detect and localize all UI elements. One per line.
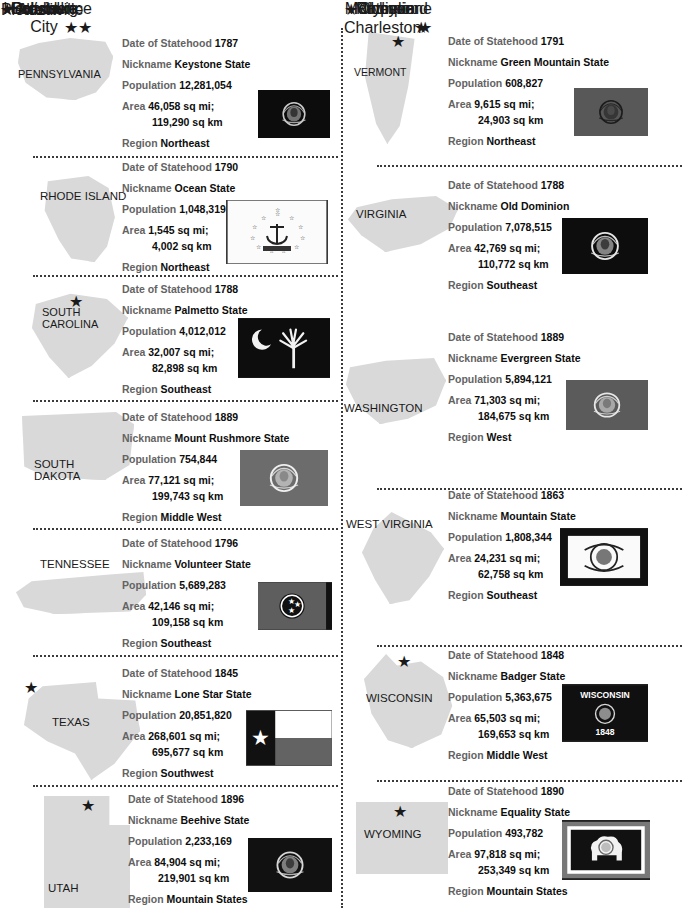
fact-value-population: 5,894,121: [505, 373, 552, 385]
fact-region: Region Mountain States: [128, 894, 249, 905]
entry-separator: [33, 275, 338, 277]
capital-city-label: Pierre ★: [0, 0, 62, 19]
fact-label-region: Region: [448, 431, 484, 443]
fact-label-area: Area: [448, 848, 471, 860]
svg-text:☆: ☆: [281, 248, 286, 254]
capital-star-icon: ★: [32, 292, 120, 311]
svg-text:☆: ☆: [261, 215, 266, 221]
fact-region: Region Middle West: [448, 750, 565, 761]
svg-text:☆: ☆: [294, 244, 299, 250]
state-flag: ★: [246, 710, 332, 766]
state-name-label: TENNESSEE: [40, 558, 144, 570]
fact-value-population: 20,851,820: [179, 709, 232, 721]
fact-value-nickname: Beehive State: [181, 814, 250, 826]
fact-population: Population 4,012,012: [122, 326, 247, 337]
capital-star-icon: ★: [0, 1, 14, 18]
fact-area: Area 9,615 sq mi;24,903 sq km: [448, 99, 609, 125]
fact-value-area-mi: 268,601 sq mi;: [148, 730, 220, 742]
capital-star-icon: ★: [418, 19, 432, 36]
fact-nickname: Nickname Evergreen State: [448, 353, 581, 364]
entry-separator: [377, 488, 682, 490]
fact-label-area: Area: [122, 730, 145, 742]
state-facts: Date of Statehood 1848Nickname Badger St…: [448, 650, 565, 771]
fact-label-date: Date of Statehood: [448, 785, 538, 797]
fact-region: Region West: [448, 432, 581, 443]
fact-value-date: 1863: [541, 489, 564, 501]
fact-region: Region Southeast: [448, 590, 576, 601]
fact-value-region: Northeast: [161, 261, 210, 273]
state-facts: Date of Statehood 1889Nickname Mount Rus…: [122, 412, 289, 533]
fact-area: Area 268,601 sq mi;695,677 sq km: [122, 731, 252, 757]
fact-region: Region Northeast: [448, 136, 609, 147]
fact-nickname: Nickname Beehive State: [128, 815, 249, 826]
capital-city-label: ★ Austin: [0, 0, 74, 19]
fact-label-region: Region: [122, 767, 158, 779]
capital-city-label: Montpelier: [344, 0, 420, 18]
fact-value-region: Southwest: [161, 767, 214, 779]
state-map-shape: [44, 796, 130, 908]
fact-value-date: 1796: [215, 537, 238, 549]
fact-nickname: Nickname Lone Star State: [122, 689, 252, 700]
state-entry: UTAHSalt Lake City★Date of Statehood 189…: [0, 0, 344, 920]
fact-value-date: 1788: [541, 179, 564, 191]
capital-city-label: Providence ★: [0, 0, 92, 37]
state-facts: Date of Statehood 1796Nickname Volunteer…: [122, 538, 251, 659]
state-map-shape: [346, 358, 446, 424]
svg-text:☆: ☆: [256, 244, 261, 250]
fact-date: Date of Statehood 1896: [128, 794, 249, 805]
state-flag: [560, 528, 648, 586]
fact-label-population: Population: [448, 827, 502, 839]
fact-label-area: Area: [122, 600, 145, 612]
state-map-shape: [40, 176, 118, 262]
fact-value-region: Mountain States: [487, 885, 568, 897]
state-name-label: SOUTHCAROLINA: [42, 306, 134, 330]
fact-value-nickname: Green Mountain State: [501, 56, 610, 68]
fact-value-area-mi: 9,615 sq mi;: [474, 98, 534, 110]
state-name-label: WISCONSIN: [366, 692, 462, 704]
fact-nickname: Nickname Mount Rushmore State: [122, 433, 289, 444]
fact-value-nickname: Badger State: [501, 670, 566, 682]
svg-text:★: ★: [251, 726, 270, 749]
fact-value-population: 5,363,675: [505, 691, 552, 703]
fact-label-region: Region: [122, 383, 158, 395]
fact-population: Population 1,808,344: [448, 532, 576, 543]
fact-value-date: 1848: [541, 649, 564, 661]
fact-label-area: Area: [448, 242, 471, 254]
fact-value-population: 7,078,515: [505, 221, 552, 233]
fact-label-region: Region: [448, 749, 484, 761]
fact-area: Area 42,769 sq mi;110,772 sq km: [448, 243, 569, 269]
capital-city-label: Harrisburg ★: [0, 0, 78, 37]
fact-area: Area 84,904 sq mi;219,901 sq km: [128, 857, 249, 883]
state-name-label: TEXAS: [52, 716, 140, 728]
svg-text:★: ★: [288, 597, 295, 606]
fact-value-date: 1787: [215, 37, 238, 49]
svg-text:☆: ☆: [250, 235, 255, 241]
fact-label-area: Area: [122, 346, 145, 358]
fact-label-region: Region: [448, 135, 484, 147]
fact-label-population: Population: [122, 579, 176, 591]
fact-label-population: Population: [122, 709, 176, 721]
fact-date: Date of Statehood 1796: [122, 538, 251, 549]
fact-label-region: Region: [448, 885, 484, 897]
capital-star-icon: ★: [364, 652, 444, 671]
svg-text:☆: ☆: [275, 207, 280, 213]
state-entry: TENNESSEE★ NashvilleDate of Statehood 17…: [0, 0, 344, 920]
state-flag: [566, 380, 648, 430]
fact-value-date: 1890: [541, 785, 564, 797]
fact-value-population: 5,689,283: [179, 579, 226, 591]
fact-value-region: Southeast: [161, 637, 212, 649]
fact-value-nickname: Mount Rushmore State: [175, 432, 290, 444]
fact-region: Region Northeast: [122, 262, 238, 273]
fact-label-population: Population: [122, 79, 176, 91]
fact-label-nickname: Nickname: [122, 688, 172, 700]
fact-area: Area 71,303 sq mi;184,675 sq km: [448, 395, 581, 421]
fact-value-area-km: 199,743 sq km: [122, 491, 289, 502]
fact-value-date: 1790: [215, 161, 238, 173]
state-name-label: PENNSYLVANIA: [18, 68, 113, 80]
capital-star-icon: ★: [414, 19, 428, 36]
state-fact-sheet-page: PENNSYLVANIAHarrisburg ★Date of Statehoo…: [0, 0, 688, 920]
state-name-label: VIRGINIA: [356, 208, 448, 220]
fact-date: Date of Statehood 1788: [448, 180, 569, 191]
fact-label-area: Area: [448, 712, 471, 724]
capital-star-icon: ★: [356, 802, 444, 821]
